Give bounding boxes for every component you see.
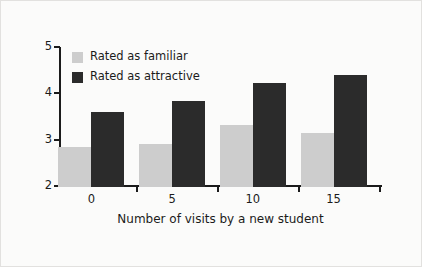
bar-familiar-0 bbox=[58, 147, 91, 187]
bar-attractive-0 bbox=[91, 112, 124, 187]
chart-legend: Rated as familiar Rated as attractive bbox=[72, 50, 200, 90]
bar-familiar-10 bbox=[220, 125, 253, 187]
bar-familiar-15 bbox=[301, 133, 334, 187]
x-tick-mark bbox=[298, 187, 300, 192]
attractive-swatch-icon bbox=[72, 72, 83, 83]
chart-plot-area: 2345 051015 Rated as familiar Rated as a… bbox=[0, 0, 422, 267]
x-tick-label: 15 bbox=[314, 194, 354, 206]
legend-item-attractive: Rated as attractive bbox=[72, 70, 200, 84]
figure-container: 2345 051015 Rated as familiar Rated as a… bbox=[0, 0, 422, 267]
legend-label-familiar: Rated as familiar bbox=[90, 51, 188, 63]
x-axis-title: Number of visits by a new student bbox=[59, 212, 382, 226]
bar-familiar-5 bbox=[139, 144, 172, 187]
y-tick-label: 3 bbox=[0, 134, 52, 146]
y-tick-label: 2 bbox=[0, 180, 52, 192]
y-tick-mark bbox=[54, 92, 60, 94]
familiar-swatch-icon bbox=[72, 52, 83, 63]
legend-label-attractive: Rated as attractive bbox=[90, 71, 200, 83]
x-tick-mark bbox=[136, 187, 138, 192]
y-tick-label: 4 bbox=[0, 87, 52, 99]
y-tick-mark bbox=[54, 46, 60, 48]
bar-attractive-15 bbox=[334, 75, 367, 187]
x-tick-label: 5 bbox=[152, 194, 192, 206]
x-tick-mark bbox=[379, 187, 381, 192]
bar-attractive-5 bbox=[172, 101, 205, 187]
x-tick-label: 0 bbox=[71, 194, 111, 206]
y-tick-label: 5 bbox=[0, 41, 52, 53]
legend-item-familiar: Rated as familiar bbox=[72, 50, 200, 64]
y-tick-mark bbox=[54, 139, 60, 141]
x-tick-mark bbox=[217, 187, 219, 192]
bar-attractive-10 bbox=[253, 83, 286, 187]
x-tick-label: 10 bbox=[233, 194, 273, 206]
